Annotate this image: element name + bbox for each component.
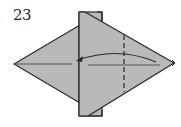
origami-diagram: [0, 0, 181, 127]
right-point-flap: [79, 12, 174, 116]
